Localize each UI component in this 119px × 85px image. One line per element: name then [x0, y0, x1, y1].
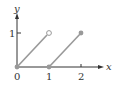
x-tick-label-1: 1 [46, 71, 52, 82]
segment-1-start-filled-dot [15, 65, 20, 70]
segment-2-line [49, 33, 81, 67]
segment-1-end-open-dot [47, 31, 52, 36]
y-tick-label-1: 1 [9, 28, 15, 39]
x-axis-label: x [106, 61, 112, 72]
segment-1-line [17, 35, 47, 67]
x-tick-label-2: 2 [78, 71, 84, 82]
segment-2-end-filled-dot [79, 31, 84, 36]
origin-label: 0 [14, 71, 20, 82]
x-axis-arrow-icon [98, 65, 104, 69]
function-graph: y x 1 0 1 2 [0, 0, 119, 85]
y-axis-label: y [13, 3, 20, 14]
segment-2-start-filled-dot [47, 65, 52, 70]
